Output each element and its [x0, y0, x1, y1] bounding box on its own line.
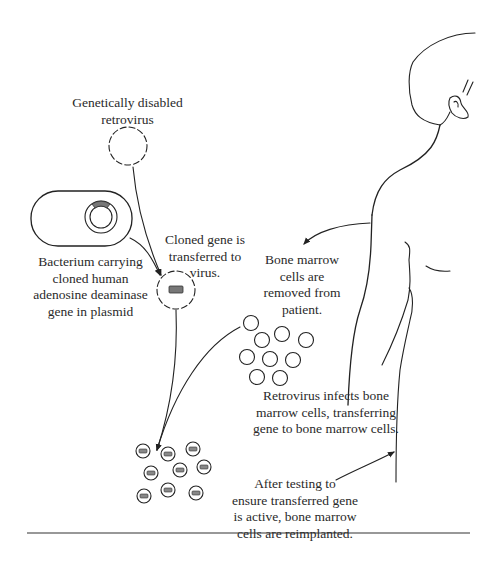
- label-bacterium: Bacterium carrying cloned human adenosin…: [18, 254, 163, 320]
- label-retrovirus: Genetically disabled retrovirus: [55, 95, 200, 128]
- label-reimplanted: After testing to ensure transferred gene…: [205, 476, 385, 542]
- retrovirus-icon: [109, 127, 147, 165]
- gene-therapy-diagram: Genetically disabled retrovirus Bacteriu…: [0, 0, 493, 564]
- label-retrovirus-infects: Retrovirus infects bone marrow cells, tr…: [226, 388, 426, 438]
- arrow-virus-to-cells: [157, 310, 176, 450]
- label-bone-marrow-removed: Bone marrow cells are removed from patie…: [252, 252, 352, 318]
- plasmid-icon: [85, 201, 117, 233]
- bone-marrow-cells: [240, 316, 314, 386]
- label-cloned-gene: Cloned gene is transferred to virus.: [155, 232, 255, 282]
- bacterium-icon: [31, 191, 132, 246]
- transduced-cells: [136, 442, 211, 503]
- arrow-patient-to-marrow: [304, 223, 370, 244]
